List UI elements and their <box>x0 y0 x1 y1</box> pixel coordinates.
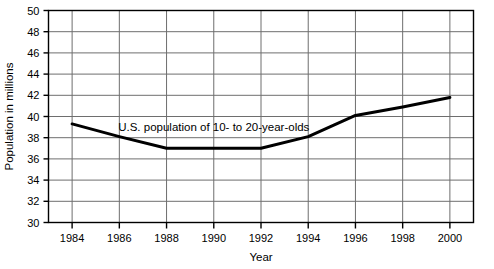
x-tick-label: 1992 <box>249 232 273 244</box>
y-tick-label: 36 <box>27 153 39 165</box>
y-axis-tick-labels: 3032343638404244464850 <box>27 5 39 229</box>
x-tick-label: 1998 <box>390 232 414 244</box>
x-axis-tick-labels: 198419861988199019921994199619982000 <box>60 232 462 244</box>
y-tick-label: 42 <box>27 89 39 101</box>
y-tick-label: 38 <box>27 132 39 144</box>
x-tick-label: 1996 <box>343 232 367 244</box>
x-axis-title: Year <box>249 251 272 263</box>
y-tick-label: 32 <box>27 195 39 207</box>
y-tick-label: 50 <box>27 5 39 17</box>
x-tick-label: 1988 <box>154 232 178 244</box>
y-tick-label: 48 <box>27 26 39 38</box>
x-axis-ticks <box>72 223 450 229</box>
x-tick-label: 1984 <box>60 232 84 244</box>
x-tick-label: 1994 <box>296 232 320 244</box>
grid-layer <box>49 11 474 223</box>
x-tick-label: 1990 <box>202 232 226 244</box>
series-annotation-label: U.S. population of 10- to 20-year-olds <box>118 121 309 133</box>
y-axis-ticks <box>44 11 49 223</box>
y-tick-label: 30 <box>27 217 39 229</box>
y-tick-label: 46 <box>27 47 39 59</box>
x-tick-label: 1986 <box>107 232 131 244</box>
y-tick-label: 44 <box>27 68 39 80</box>
annotation-layer: U.S. population of 10- to 20-year-olds <box>118 121 309 133</box>
y-tick-label: 34 <box>27 174 39 186</box>
y-axis-title: Population in millions <box>3 62 15 170</box>
y-tick-label: 40 <box>27 111 39 123</box>
chart-container: 3032343638404244464850 19841986198819901… <box>0 0 494 269</box>
line-chart: 3032343638404244464850 19841986198819901… <box>0 0 494 269</box>
x-tick-label: 2000 <box>438 232 462 244</box>
